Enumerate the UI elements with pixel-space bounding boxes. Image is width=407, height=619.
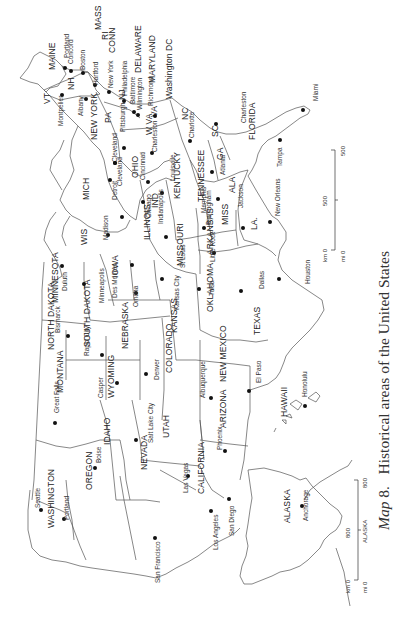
city-label: Great Falls: [54, 381, 61, 413]
city-label: Denver: [154, 359, 161, 380]
city-marker-icon: [209, 396, 213, 400]
city-label: El Paso: [256, 361, 263, 383]
city-label: Madison: [103, 215, 110, 240]
state-label: WYOMING: [107, 355, 116, 398]
scale-mid-alaska: 800: [345, 528, 351, 538]
state-label: ARIZONA: [219, 390, 228, 428]
city-marker-icon: [277, 277, 281, 281]
city-label: Omaha: [133, 286, 140, 307]
city-label: Boise: [96, 447, 103, 463]
city-marker-icon: [153, 114, 157, 118]
city-marker-icon: [82, 282, 86, 286]
city-marker-icon: [69, 69, 73, 73]
state-label: PA: [104, 112, 113, 123]
city-label: Atlanta: [220, 155, 227, 175]
city-marker-icon: [153, 536, 157, 540]
state-label: OREGON: [85, 452, 94, 490]
state-label: TEXAS: [253, 307, 262, 335]
city-marker-icon: [268, 220, 272, 224]
city-label: Hartford: [93, 62, 100, 85]
city-label: Houston: [305, 260, 312, 284]
city-marker-icon: [66, 334, 70, 338]
city-label: Jackson: [238, 184, 245, 208]
state-label: WASHINGTON: [47, 469, 56, 528]
scale-mid-contiguous: 500: [322, 196, 328, 206]
scale-mi-zero-contiguous: mi 0: [340, 251, 346, 262]
city-label: Chicago: [146, 194, 153, 218]
state-label: Washington DC: [165, 38, 174, 99]
city-label: Albuquerque: [200, 361, 207, 398]
scale-km-zero-contiguous: km 0: [322, 249, 328, 262]
city-marker-icon: [107, 90, 111, 94]
city-label: Tulsa: [209, 280, 216, 296]
city-marker-icon: [122, 146, 126, 150]
state-label: NEW MEXICO: [219, 325, 228, 382]
city-marker-icon: [278, 138, 282, 142]
city-label: Dallas: [259, 271, 266, 289]
city-label: Phoenix: [217, 427, 224, 451]
scale-km-zero-alaska: km 0: [345, 580, 351, 593]
state-label: ALA: [228, 177, 237, 193]
state-label: MISS: [221, 204, 230, 225]
city-label: Albany: [78, 96, 85, 116]
city-label: Duluth: [62, 272, 69, 291]
scale-end-alaska: 800: [362, 478, 368, 488]
city-marker-icon: [115, 381, 119, 385]
city-label: Concord: [68, 39, 75, 64]
state-label: MASS: [94, 6, 103, 31]
city-label: Philadelphia: [122, 61, 129, 96]
city-marker-icon: [160, 277, 164, 281]
city-label: Honolulu: [302, 371, 309, 397]
city-marker-icon: [63, 66, 67, 70]
state-label: UTAH: [162, 415, 171, 438]
state-label: WIS: [80, 229, 89, 245]
city-label: Casper: [98, 377, 105, 398]
city-marker-icon: [197, 287, 201, 291]
city-marker-icon: [303, 404, 307, 408]
city-label: Seattle: [35, 488, 42, 508]
state-label: NEW YORK: [90, 93, 99, 140]
city-label: Rapid City: [84, 326, 91, 356]
city-marker-icon: [239, 289, 243, 293]
state-label: ALASKA: [283, 489, 292, 523]
city-label: Detroit: [112, 181, 119, 200]
city-label: Portland: [64, 496, 71, 520]
scale-mi-zero-alaska: mi 0: [362, 582, 368, 593]
maine-outline: [20, 52, 66, 92]
state-label: MICH: [82, 178, 91, 200]
city-label: Los Angeles: [213, 515, 220, 550]
city-marker-icon: [100, 353, 104, 357]
city-marker-icon: [223, 449, 227, 453]
city-marker-icon: [144, 372, 148, 376]
caption-title: Historical areas of the United States: [375, 251, 392, 474]
city-label: San Francisco: [155, 541, 162, 583]
city-marker-icon: [202, 226, 206, 230]
state-label: DELAWARE: [134, 25, 143, 73]
state-label: COLORADO: [165, 324, 174, 373]
city-label: San Diego: [229, 506, 236, 536]
aleutians: [336, 548, 350, 606]
city-label: Charleston: [241, 92, 248, 123]
city-label: Indianapolis: [158, 189, 165, 224]
caption-number: 8.: [375, 486, 392, 498]
city-label: Little Rock: [210, 232, 217, 262]
city-marker-icon: [209, 509, 213, 513]
map-caption: Map 8. Historical areas of the United St…: [376, 251, 392, 530]
city-marker-icon: [130, 263, 134, 267]
city-label: Louisville: [170, 154, 177, 181]
state-label: MAINE: [48, 43, 57, 70]
city-label: Minneapolis: [99, 268, 106, 303]
city-label: Montpelier: [58, 96, 65, 126]
city-label: Wilmington: [137, 78, 144, 110]
city-marker-icon: [84, 97, 88, 101]
city-marker-icon: [134, 438, 138, 442]
city-label: Charlotte: [189, 112, 196, 138]
city-label: Tampa: [277, 147, 284, 167]
scale-bar-alaska: [354, 480, 361, 580]
city-label: Charleston: [152, 121, 159, 152]
city-label: Richmond: [148, 77, 155, 106]
city-label: Anchorage: [303, 490, 310, 521]
city-marker-icon: [164, 235, 168, 239]
city-marker-icon: [210, 170, 214, 174]
city-marker-icon: [146, 180, 150, 184]
